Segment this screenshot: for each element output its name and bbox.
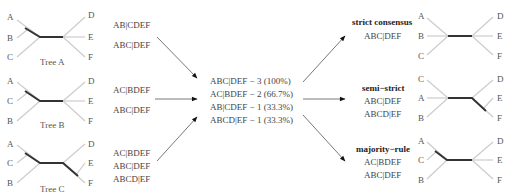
leaf-label: C: [7, 158, 13, 168]
arrow-icon: [303, 115, 345, 161]
input-arrows: [155, 37, 197, 161]
split-count: ABCD|EF − 1 (33.3%): [210, 115, 293, 125]
arrow-icon: [157, 117, 197, 161]
leaf-label: F: [88, 178, 93, 188]
leaf-label: E: [88, 32, 94, 42]
leaf-label: C: [7, 96, 13, 106]
split-label: ABCD|EF: [113, 174, 150, 184]
output-arrows: [303, 36, 345, 161]
split-count: AC|BDEF − 2 (66.7%): [210, 89, 293, 99]
leaf-label: B: [7, 116, 13, 126]
leaf-label: A: [418, 93, 425, 103]
split-label: ABCD|EF: [364, 109, 401, 119]
leaf-label: B: [418, 175, 424, 185]
tree-a: A B C D E F Tree A AB|CDEF ABC|DEF: [7, 10, 150, 67]
tree-b: A C B D E F Tree B AC|BDEF ABC|DEF: [7, 76, 150, 130]
tree-caption: Tree C: [40, 184, 64, 194]
internal-branch: [448, 98, 486, 111]
leaf-label: A: [7, 76, 14, 86]
method-title: majority−rule: [356, 144, 410, 154]
leaf-label: F: [497, 113, 502, 123]
split-label: AC|BDEF: [113, 85, 150, 95]
leaf-label: F: [88, 116, 93, 126]
leaf-label: A: [7, 12, 14, 22]
leaf-label: A: [418, 11, 425, 21]
leaf-label: D: [497, 11, 504, 21]
split-label: ABC|DEF: [364, 170, 401, 180]
split-label: AB|CDEF: [113, 20, 150, 30]
semi-strict-tree: semi−strict ABC|DEF ABCD|EF C A B D E F: [362, 74, 504, 123]
leaf-label: D: [88, 10, 95, 20]
leaf-label: C: [7, 52, 13, 62]
internal-branch: [25, 28, 63, 37]
internal-branch: [435, 151, 472, 160]
strict-consensus-tree: strict consensus ABC|DEF A B C D E F: [352, 11, 504, 61]
arrow-icon: [303, 36, 345, 82]
leaf-label: A: [7, 139, 14, 149]
arrow-icon: [157, 37, 197, 78]
leaf-label: E: [88, 158, 94, 168]
split-label: ABC|DEF: [364, 31, 401, 41]
internal-branch: [25, 91, 63, 101]
leaf-label: E: [497, 155, 503, 165]
leaf-label: B: [418, 31, 424, 41]
split-label: AC|BDEF: [113, 148, 150, 158]
leaf-label: D: [88, 139, 95, 149]
tree-c: A C B D E F Tree C AC|BDEF ABC|DEF ABCD|…: [7, 139, 150, 194]
tree-caption: Tree B: [40, 120, 64, 130]
leaf-label: D: [497, 74, 504, 84]
leaf-label: F: [497, 51, 502, 61]
leaf-label: B: [7, 33, 13, 43]
method-title: strict consensus: [352, 17, 413, 27]
leaf-label: B: [7, 178, 13, 188]
leaf-label: E: [497, 93, 503, 103]
majority-rule-tree: majority−rule AC|BDEF ABC|DEF A C B D E …: [356, 136, 504, 185]
leaf-label: F: [88, 52, 93, 62]
split-label: ABC|DEF: [364, 96, 401, 106]
leaf-label: B: [418, 113, 424, 123]
split-count: ABC|DEF − 3 (100%): [210, 76, 291, 86]
leaf-label: D: [88, 76, 95, 86]
leaf-label: A: [418, 136, 425, 146]
split-label: ABC|DEF: [113, 105, 150, 115]
split-counts: ABC|DEF − 3 (100%) AC|BDEF − 2 (66.7%) A…: [210, 76, 293, 125]
split-count: AB|CDEF − 1 (33.3%): [210, 102, 293, 112]
method-title: semi−strict: [362, 83, 405, 93]
leaf-label: C: [418, 51, 424, 61]
split-label: ABC|DEF: [113, 40, 150, 50]
leaf-label: E: [88, 96, 94, 106]
split-label: AC|BDEF: [364, 157, 401, 167]
consensus-tree-diagram: A B C D E F Tree A AB|CDEF ABC|DEF A C B…: [0, 0, 510, 195]
tree-caption: Tree A: [40, 57, 65, 67]
leaf-label: C: [418, 74, 424, 84]
leaf-label: E: [497, 31, 503, 41]
leaf-label: F: [497, 175, 502, 185]
split-label: ABC|DEF: [113, 161, 150, 171]
leaf-label: D: [497, 136, 504, 146]
leaf-label: C: [418, 155, 424, 165]
